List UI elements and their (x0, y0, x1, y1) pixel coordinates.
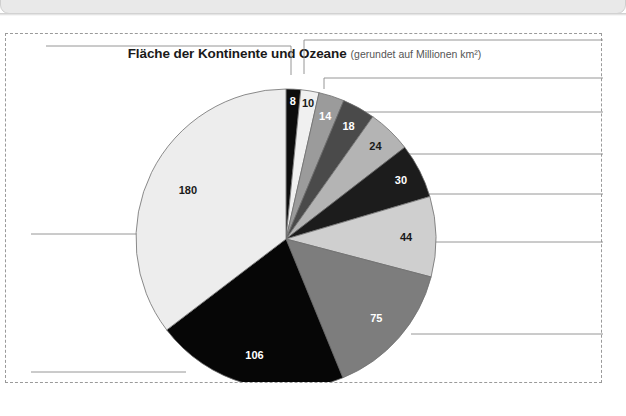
pie-chart-svg: 810141824304475106180 (6, 34, 603, 382)
pie-slice-label-24: 24 (369, 140, 382, 152)
pie-chart: 810141824304475106180 (6, 34, 603, 382)
leader-line-10 (304, 40, 603, 74)
leader-line-8 (46, 46, 291, 75)
pie-slice-label-106: 106 (245, 349, 263, 361)
window-chrome-bar (0, 0, 626, 14)
pie-slice-label-30: 30 (395, 174, 407, 186)
pie-slice-label-18: 18 (342, 120, 354, 132)
pie-slice-label-10: 10 (302, 97, 314, 109)
leader-line-14 (324, 78, 603, 89)
window-chrome-shadow (0, 13, 626, 16)
pie-slice-label-75: 75 (370, 312, 382, 324)
pie-slice-group (136, 89, 436, 382)
pie-slice-label-14: 14 (319, 110, 332, 122)
figure-frame: Fläche der Kontinente und Ozeane(gerunde… (5, 33, 602, 383)
pie-slice-label-8: 8 (290, 95, 296, 107)
pie-slice-label-180: 180 (179, 184, 197, 196)
pie-slice-label-44: 44 (400, 231, 413, 243)
